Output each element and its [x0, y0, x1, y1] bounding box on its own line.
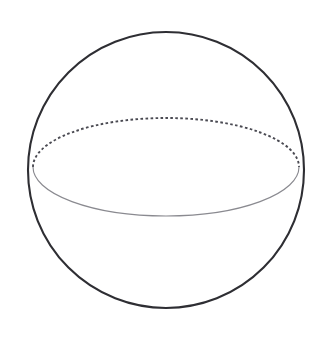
sphere-diagram-svg [0, 0, 324, 339]
figure-background [0, 0, 324, 339]
sphere-figure-canvas [0, 0, 324, 339]
